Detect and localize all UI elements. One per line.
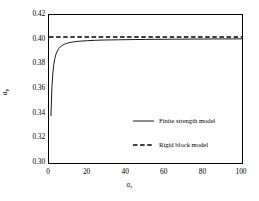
y-tick-label: 0.38	[32, 58, 45, 67]
y-tick-label: 0.34	[32, 108, 45, 117]
y-tick-label: 0.42	[32, 9, 45, 18]
series-layer	[49, 37, 242, 116]
plot-canvas: Finite strength modelRigid block model	[49, 15, 242, 163]
x-tick-label: 80	[199, 167, 206, 176]
legend-layer: Finite strength modelRigid block model	[133, 117, 216, 148]
y-axis-subscript: p	[4, 89, 9, 91]
x-axis-subscript: c	[130, 184, 132, 189]
y-tick-label: 0.36	[32, 83, 45, 92]
x-tick-label: 100	[235, 167, 246, 176]
y-axis-symbol: α	[1, 91, 9, 95]
x-axis-tick-labels: 020406080100	[0, 167, 259, 181]
x-tick-label: 0	[46, 167, 50, 176]
y-tick-label: 0.32	[32, 132, 45, 141]
legend-label-1: Finite strength model	[159, 117, 216, 124]
x-tick-label: 20	[83, 167, 90, 176]
figure: Finite strength modelRigid block model 0…	[0, 0, 259, 201]
series-line-1	[51, 39, 242, 116]
y-axis-label: αp	[1, 89, 9, 95]
plot-area: Finite strength modelRigid block model	[48, 14, 243, 164]
x-tick-label: 40	[121, 167, 128, 176]
x-tick-label: 60	[160, 167, 167, 176]
y-tick-label: 0.30	[32, 157, 45, 166]
y-tick-label: 0.40	[32, 34, 45, 43]
legend-label-2: Rigid block model	[159, 141, 208, 148]
x-axis-label: σc	[0, 181, 259, 189]
